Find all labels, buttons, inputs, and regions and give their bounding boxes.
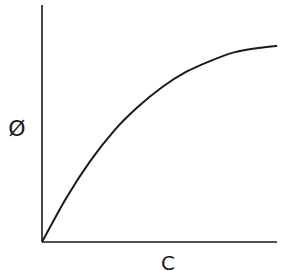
- x-axis-label: C: [161, 251, 175, 275]
- y-axis-label: Ø: [8, 116, 25, 141]
- series-line: [42, 46, 277, 242]
- chart: Ø C: [0, 0, 282, 276]
